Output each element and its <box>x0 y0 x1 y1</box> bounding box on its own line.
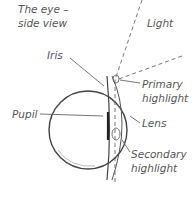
label-secondary-line1: Secondary <box>131 148 187 160</box>
label-light: Light <box>147 17 173 29</box>
label-iris: Iris <box>47 49 63 61</box>
pupil-leader <box>40 114 103 116</box>
secondary-highlight-shape <box>112 128 120 140</box>
eye-diagram <box>0 0 195 211</box>
label-lens: Lens <box>142 117 166 129</box>
iris-leader <box>70 58 104 86</box>
diagram-title-line2: side view <box>18 17 67 29</box>
light-ray-upper <box>115 0 142 80</box>
label-secondary-line2: highlight <box>131 162 177 174</box>
label-pupil: Pupil <box>12 108 38 120</box>
label-primary-line2: highlight <box>142 92 188 104</box>
light-ray-side <box>116 56 182 80</box>
diagram-title-line1: The eye – <box>18 3 69 15</box>
lens-leader <box>130 116 140 123</box>
primary-leader <box>120 80 140 83</box>
eyeball-shading <box>58 150 95 166</box>
label-primary-line1: Primary <box>142 78 183 90</box>
